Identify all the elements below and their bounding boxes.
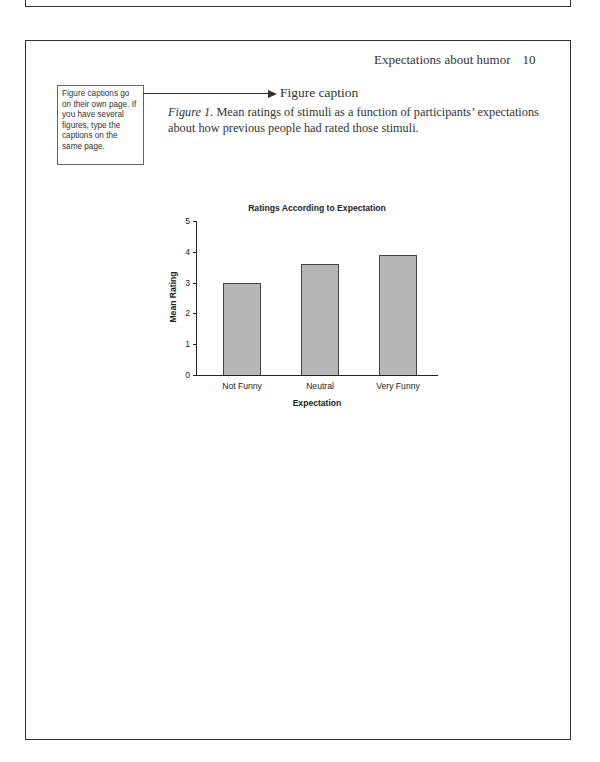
figure-caption: Figure 1. Mean ratings of stimuli as a f…: [168, 104, 568, 136]
arrow-right-icon: [268, 90, 277, 98]
y-tick-label: 2: [180, 308, 190, 318]
y-tick-label: 3: [180, 278, 190, 288]
x-category-label: Very Funny: [358, 381, 438, 391]
running-head-title: Expectations about humor: [374, 52, 510, 67]
previous-page-edge: [25, 0, 571, 7]
y-axis-title: Mean Rating: [168, 271, 178, 322]
x-category-label: Neutral: [280, 381, 360, 391]
callout-arrow-line: [143, 93, 269, 94]
y-tick-label: 4: [180, 247, 190, 257]
caption-text: Mean ratings of stimuli as a function of…: [168, 105, 539, 135]
arrow-label: Figure caption: [280, 85, 358, 101]
bar-very-funny: [379, 255, 417, 375]
y-tick: [193, 375, 196, 376]
y-tick-label: 5: [180, 216, 190, 226]
y-tick-label: 1: [180, 339, 190, 349]
y-tick: [193, 344, 196, 345]
annotation-callout: Figure captions go on their own page. If…: [57, 85, 144, 165]
bar-neutral: [301, 264, 339, 375]
y-tick: [193, 313, 196, 314]
page-number: 10: [522, 52, 535, 67]
y-tick: [193, 221, 196, 222]
x-axis: [196, 375, 438, 376]
y-axis: [196, 221, 197, 375]
figure-label: Figure 1.: [168, 105, 213, 119]
y-tick: [193, 283, 196, 284]
y-tick: [193, 252, 196, 253]
chart-title: Ratings According to Expectation: [196, 203, 438, 213]
bar-not-funny: [223, 283, 261, 375]
y-tick-label: 0: [180, 370, 190, 380]
x-axis-title: Expectation: [196, 398, 438, 408]
x-category-label: Not Funny: [202, 381, 282, 391]
running-head: Expectations about humor10: [374, 52, 535, 68]
